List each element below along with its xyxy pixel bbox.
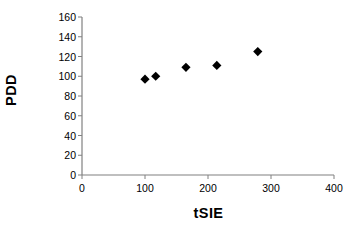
data-point-marker (140, 75, 149, 84)
scatter-chart: PDD tSIE 020406080100120140160 010020030… (0, 0, 357, 233)
plot-area (0, 0, 357, 233)
data-point-marker (151, 72, 160, 81)
data-point-marker (212, 61, 221, 70)
data-point-marker (181, 63, 190, 72)
axes-group (78, 17, 334, 179)
data-point-marker (253, 47, 262, 56)
data-points-group (140, 47, 262, 84)
